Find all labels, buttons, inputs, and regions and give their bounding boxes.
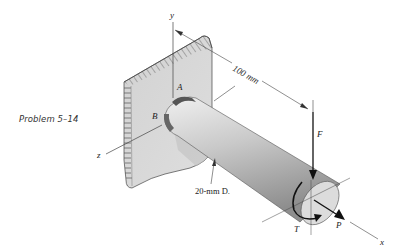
x-axis-label: x (379, 237, 384, 247)
point-b-label: B (152, 111, 158, 121)
point-a-label: A (176, 82, 183, 92)
force-f-label: F (316, 129, 323, 139)
diameter-label: 20-mm D. (195, 186, 230, 196)
length-dimension-label: 100 mm (231, 63, 261, 86)
shaft-diagram: y z A B 100 mm F x P (0, 0, 404, 248)
torque-t-label: T (294, 224, 300, 234)
z-axis-label: z (96, 150, 101, 160)
x-axis-line (350, 222, 378, 239)
force-p-label: P (335, 220, 342, 230)
y-axis-label: y (169, 10, 174, 20)
